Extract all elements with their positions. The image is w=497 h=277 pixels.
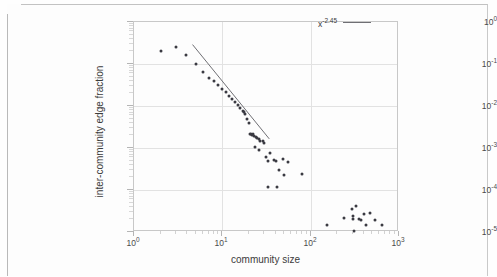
x-minor-tick: [208, 231, 209, 234]
power-law-reference-line: [134, 22, 399, 232]
y-minor-tick: [129, 122, 133, 123]
y-minor-tick: [129, 67, 133, 68]
data-point: [159, 49, 162, 52]
data-point: [264, 155, 267, 158]
y-minor-tick: [129, 114, 133, 115]
y-minor-tick: [129, 72, 133, 73]
x-tick-label: 103: [391, 236, 404, 248]
y-minor-tick: [129, 118, 133, 119]
y-minor-tick: [129, 25, 133, 26]
x-minor-tick: [363, 231, 364, 234]
data-point: [221, 87, 224, 90]
data-point: [373, 218, 376, 221]
data-point: [194, 63, 197, 66]
data-point: [228, 94, 231, 97]
y-minor-tick: [129, 149, 133, 150]
y-minor-tick: [129, 80, 133, 81]
data-point: [263, 141, 266, 144]
data-point: [185, 53, 188, 56]
data-point: [287, 161, 290, 164]
data-point: [247, 121, 250, 124]
x-minor-tick: [306, 231, 307, 234]
x-minor-tick: [301, 231, 302, 234]
y-minor-tick: [129, 23, 133, 24]
y-minor-tick: [129, 206, 133, 207]
data-point: [207, 76, 210, 79]
y-minor-tick: [129, 196, 133, 197]
x-tick-label: 100: [126, 236, 139, 248]
data-point: [202, 71, 205, 74]
y-minor-tick: [129, 156, 133, 157]
x-axis-label: community size: [133, 254, 398, 265]
data-point: [217, 84, 220, 87]
x-minor-tick: [275, 231, 276, 234]
x-minor-tick: [352, 231, 353, 234]
y-minor-tick: [129, 50, 133, 51]
y-minor-tick: [129, 202, 133, 203]
data-point: [254, 146, 257, 149]
plot-area: [133, 21, 398, 231]
data-point: [269, 152, 272, 155]
y-axis-label: inter-community edge fraction: [94, 27, 105, 237]
data-point: [257, 148, 260, 151]
data-point: [175, 45, 178, 48]
y-minor-tick: [129, 34, 133, 35]
x-minor-tick: [186, 231, 187, 234]
data-point: [355, 205, 358, 208]
data-point: [275, 160, 278, 163]
data-point: [267, 185, 270, 188]
data-point: [224, 91, 227, 94]
y-minor-tick: [129, 43, 133, 44]
y-minor-tick: [129, 38, 133, 39]
x-minor-tick: [290, 231, 291, 234]
y-minor-tick: [129, 112, 133, 113]
y-minor-tick: [129, 191, 133, 192]
y-minor-tick: [129, 70, 133, 71]
data-point: [369, 211, 372, 214]
data-point: [245, 117, 248, 120]
x-minor-tick: [336, 231, 337, 234]
x-tick-label: 102: [303, 236, 316, 248]
y-minor-tick: [129, 92, 133, 93]
data-point: [352, 217, 355, 220]
data-point: [343, 217, 346, 220]
data-point: [326, 224, 329, 227]
y-minor-tick: [129, 151, 133, 152]
x-minor-tick: [371, 231, 372, 234]
data-point: [281, 157, 284, 160]
y-minor-tick: [129, 85, 133, 86]
y-minor-tick: [129, 169, 133, 170]
x-minor-tick: [389, 231, 390, 234]
y-minor-tick: [129, 76, 133, 77]
data-point: [212, 79, 215, 82]
data-point: [364, 224, 367, 227]
data-point: [301, 173, 304, 176]
y-minor-tick: [129, 134, 133, 135]
y-minor-tick: [129, 218, 133, 219]
y-minor-tick: [129, 65, 133, 66]
scanned-page: inter-community edge fraction community …: [0, 0, 497, 277]
x-minor-tick: [283, 231, 284, 234]
y-minor-tick: [129, 109, 133, 110]
x-minor-tick: [384, 231, 385, 234]
data-point: [283, 173, 286, 176]
x-minor-tick: [160, 231, 161, 234]
data-point: [381, 224, 384, 227]
data-point: [244, 113, 247, 116]
x-minor-tick: [248, 231, 249, 234]
y-minor-tick: [129, 154, 133, 155]
data-point: [359, 219, 362, 222]
y-minor-tick: [129, 164, 133, 165]
y-minor-tick: [129, 176, 133, 177]
data-point: [276, 186, 279, 189]
chart-figure: inter-community edge fraction community …: [0, 0, 497, 277]
x-minor-tick: [296, 231, 297, 234]
data-point: [350, 208, 353, 211]
x-minor-tick: [378, 231, 379, 234]
y-minor-tick: [129, 160, 133, 161]
x-minor-tick: [213, 231, 214, 234]
legend: x-2.45: [318, 17, 371, 29]
y-minor-tick: [129, 211, 133, 212]
y-minor-tick: [129, 193, 133, 194]
data-point: [267, 160, 270, 163]
